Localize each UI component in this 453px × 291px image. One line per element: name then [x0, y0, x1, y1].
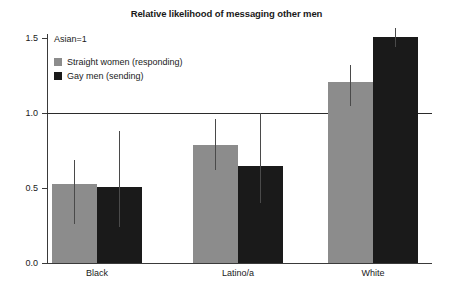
error-bar-latino-a-series-0: [215, 119, 216, 170]
y-tick-mark-0: [42, 263, 47, 264]
error-bar-black-series-0: [74, 160, 75, 225]
y-tick-label-2: 1.0: [4, 108, 38, 118]
x-axis-line: [47, 263, 432, 264]
chart-container: Relative likelihood of messaging other m…: [0, 0, 453, 291]
bar-white-series-1: [373, 37, 418, 264]
error-bar-white-series-0: [350, 65, 351, 106]
y-tick-label-1: 0.5: [4, 183, 38, 193]
y-tick-label-0: 0.0: [4, 258, 38, 268]
plot-area: [47, 34, 432, 263]
x-tick-label-black: Black: [86, 268, 108, 278]
error-bar-latino-a-series-1: [260, 113, 261, 203]
error-bar-white-series-1: [395, 28, 396, 48]
x-tick-label-latino-a: Latino/a: [222, 268, 254, 278]
y-tick-label-3: 1.5: [4, 33, 38, 43]
x-tick-label-white: White: [361, 268, 384, 278]
bar-white-series-0: [328, 82, 373, 264]
error-bar-black-series-1: [119, 131, 120, 227]
chart-title: Relative likelihood of messaging other m…: [0, 8, 453, 19]
